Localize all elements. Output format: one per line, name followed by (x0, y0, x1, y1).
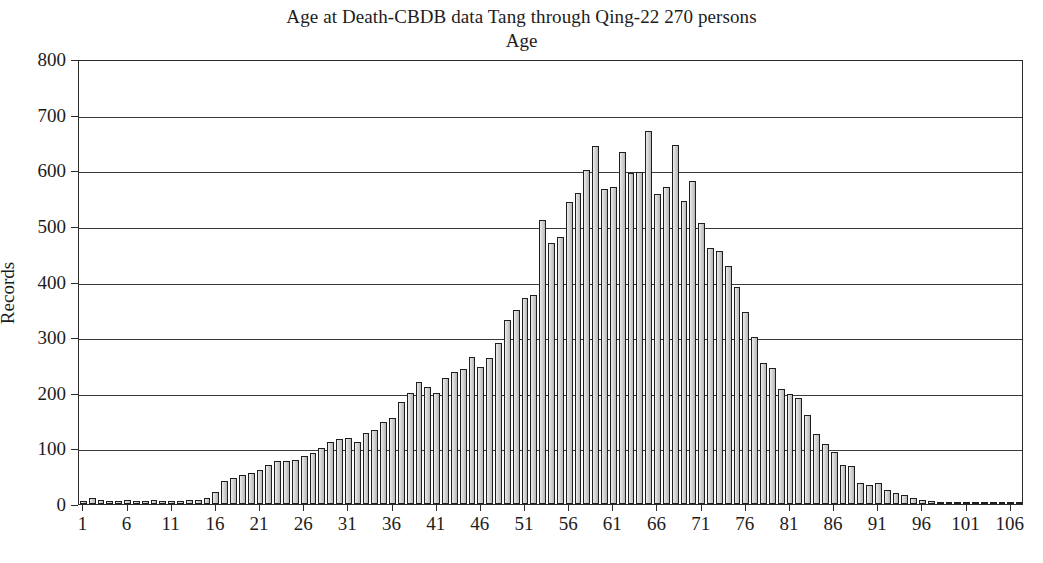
histogram-bar (292, 460, 299, 505)
histogram-bar (504, 320, 511, 504)
histogram-bar (751, 337, 758, 504)
histogram-bar (840, 465, 847, 504)
x-tick-label: 71 (691, 513, 710, 535)
histogram-bar (681, 201, 688, 504)
histogram-bar (601, 189, 608, 504)
histogram-bar (283, 461, 290, 504)
histogram-bar (530, 295, 537, 504)
histogram-bar (318, 448, 325, 504)
histogram-bar (486, 358, 493, 504)
x-tick-label: 16 (205, 513, 224, 535)
chart-title: Age at Death-CBDB data Tang through Qing… (0, 6, 1043, 28)
x-tick-label: 86 (824, 513, 843, 535)
x-tick-mark (966, 505, 967, 511)
histogram-bar (981, 502, 988, 504)
y-tick-mark (71, 116, 78, 117)
histogram-bar (937, 502, 944, 504)
y-tick-label: 300 (38, 327, 67, 349)
histogram-bar (663, 187, 670, 504)
histogram-bar (628, 173, 635, 504)
y-tick-mark (71, 227, 78, 228)
histogram-bar (398, 402, 405, 504)
x-tick-mark (656, 505, 657, 511)
histogram-bar (901, 495, 908, 504)
y-tick-mark (71, 171, 78, 172)
histogram-bar (583, 170, 590, 504)
histogram-bar (822, 444, 829, 504)
histogram-bar (972, 502, 979, 504)
histogram-bar (848, 466, 855, 504)
histogram-bar (725, 266, 732, 504)
histogram-bar (893, 493, 900, 504)
histogram-bar (424, 387, 431, 504)
x-tick-label: 81 (779, 513, 798, 535)
histogram-bar (813, 434, 820, 504)
histogram-bar (416, 382, 423, 504)
y-tick-mark (71, 338, 78, 339)
histogram-bar (857, 483, 864, 504)
histogram-bar (124, 500, 131, 504)
x-tick-mark (259, 505, 260, 511)
histogram-bar (787, 394, 794, 504)
x-tick-mark (568, 505, 569, 511)
histogram-bar (204, 498, 211, 504)
histogram-bar (742, 312, 749, 504)
x-tick-label: 101 (951, 513, 980, 535)
y-tick-mark (71, 283, 78, 284)
y-tick-mark (71, 394, 78, 395)
y-tick-mark (71, 60, 78, 61)
histogram-bar (963, 502, 970, 504)
histogram-bar (354, 442, 361, 504)
histogram-bar (477, 367, 484, 504)
histogram-bar (716, 251, 723, 504)
x-tick-label: 6 (122, 513, 132, 535)
histogram-bar (698, 223, 705, 504)
histogram-bar (274, 461, 281, 504)
histogram-bar (778, 389, 785, 504)
histogram-bar (80, 501, 87, 504)
x-tick-mark (215, 505, 216, 511)
histogram-bar (212, 492, 219, 504)
x-axis: 1611162126313641465156616671768186919610… (0, 505, 1043, 563)
x-tick-mark (392, 505, 393, 511)
y-tick-label: 200 (38, 383, 67, 405)
histogram-bar (672, 145, 679, 504)
histogram-bar (513, 310, 520, 504)
histogram-bar (795, 398, 802, 504)
histogram-bar (990, 502, 997, 504)
x-tick-label: 11 (162, 513, 180, 535)
histogram-bar (159, 501, 166, 504)
x-tick-label: 61 (603, 513, 622, 535)
x-tick-mark (436, 505, 437, 511)
y-tick-label: 800 (38, 49, 67, 71)
histogram-bar (433, 393, 440, 504)
y-axis-title: Records (0, 213, 19, 373)
histogram-bar (327, 442, 334, 504)
histogram-bar (248, 473, 255, 504)
y-tick-label: 600 (38, 160, 67, 182)
x-tick-mark (127, 505, 128, 511)
x-tick-mark (833, 505, 834, 511)
histogram-bar (451, 372, 458, 504)
histogram-bar (195, 500, 202, 504)
x-tick-mark (303, 505, 304, 511)
histogram-bar (875, 483, 882, 504)
x-tick-label: 106 (996, 513, 1025, 535)
plot-area (78, 60, 1023, 505)
y-tick-label: 100 (38, 438, 67, 460)
histogram-bar (230, 478, 237, 504)
x-tick-label: 51 (515, 513, 534, 535)
histogram-bar (689, 181, 696, 504)
histogram-bar (133, 501, 140, 504)
histogram-bar (151, 500, 158, 504)
x-tick-mark (1010, 505, 1011, 511)
x-tick-mark (921, 505, 922, 511)
histogram-bar (707, 248, 714, 504)
histogram-bar (177, 501, 184, 504)
histogram-bar (106, 501, 113, 504)
x-tick-mark (347, 505, 348, 511)
histogram-bar (619, 152, 626, 504)
histogram-bar (884, 490, 891, 504)
histogram-bar (89, 498, 96, 504)
histogram-bars (79, 61, 1022, 504)
